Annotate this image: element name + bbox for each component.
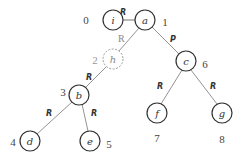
index-label-f: 7 [154,132,160,144]
tree-diagram: R R P R R R R R i a h b d e [0,0,243,160]
edges [37,20,217,134]
node-label: c [183,56,189,67]
edge-label-a-c: P [170,35,176,44]
index-label-i: 0 [83,14,89,26]
index-label-a: 1 [162,16,168,28]
node-label: a [142,15,148,26]
edge-label-c-g: R [210,82,216,91]
node-label: d [27,136,33,147]
node-f: f [147,103,167,123]
node-c: c [176,51,196,71]
node-i: i [103,10,123,30]
index-label-c: 6 [202,58,208,70]
node-label: e [87,136,93,147]
edge-label-c-f: R [157,82,163,91]
node-d: d [20,131,40,151]
index-label-b: 3 [60,86,66,98]
node-label: g [219,108,225,119]
edge-label-h-b: R [86,73,92,82]
index-label-g: 8 [219,133,225,145]
node-b: b [69,85,89,105]
node-g: g [212,103,232,123]
edge-b-d [37,102,72,134]
node-label: i [111,15,114,26]
index-label-d: 4 [10,136,16,148]
nodes: i a h b d e c f [20,10,232,151]
edge-label-b-e: R [91,109,97,118]
node-a: a [135,10,155,30]
edge-label-a-h: R [118,33,125,44]
index-label-e: 5 [106,138,112,150]
node-e: e [80,131,100,151]
edge-b-e [82,104,88,131]
index-label-h: 2 [92,54,98,66]
edge-label-b-d: R [46,109,52,118]
node-label: b [76,90,82,101]
edge-c-f [161,70,182,104]
node-label: h [110,54,116,65]
node-h: h [103,49,123,69]
